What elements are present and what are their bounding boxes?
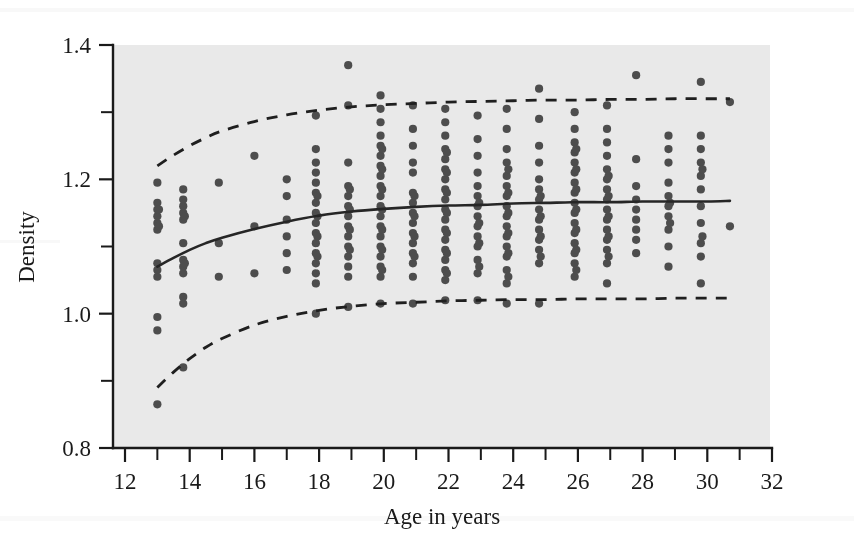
scatter-point [378, 165, 386, 173]
x-tick-label: 20 [372, 469, 395, 494]
scatter-point [605, 232, 613, 240]
scatter-point [572, 246, 580, 254]
scatter-point [605, 212, 613, 220]
scatter-point [153, 179, 161, 187]
scatter-point [378, 226, 386, 234]
scatter-point [503, 145, 511, 153]
scatter-point [179, 293, 187, 301]
scatter-point [572, 185, 580, 193]
scatter-point [504, 229, 512, 237]
scatter-point [664, 132, 672, 140]
scatter-point [179, 185, 187, 193]
scatter-point [666, 219, 674, 227]
scatter-point [504, 209, 512, 217]
y-tick-label: 1.2 [62, 167, 91, 192]
scatter-point [313, 232, 321, 240]
scatter-point [474, 135, 482, 143]
scatter-point [504, 249, 512, 257]
scatter-point [376, 118, 384, 126]
scatter-point [441, 105, 449, 113]
scatter-point [410, 192, 418, 200]
scatter-point [344, 158, 352, 166]
scatter-point [474, 182, 482, 190]
scatter-point [346, 185, 354, 193]
scatter-point [537, 252, 545, 260]
scatter-point [443, 209, 451, 217]
x-tick-label: 22 [437, 469, 460, 494]
scatter-point [181, 259, 189, 267]
scatter-point [603, 279, 611, 287]
scatter-point [503, 125, 511, 133]
scatter-point [283, 232, 291, 240]
y-tick-label: 1.0 [62, 302, 91, 327]
x-tick-label: 26 [566, 469, 589, 494]
scatter-point [632, 216, 640, 224]
scatter-point [312, 279, 320, 287]
scatter-point [475, 219, 483, 227]
scatter-point [181, 212, 189, 220]
scatter-point [535, 115, 543, 123]
scatter-point [664, 242, 672, 250]
scatter-point [443, 189, 451, 197]
scatter-point [409, 273, 417, 281]
scatter-point [697, 202, 705, 210]
scatter-point [443, 249, 451, 257]
scatter-point [410, 232, 418, 240]
scatter-point [153, 326, 161, 334]
scatter-point [409, 142, 417, 150]
scatter-point [312, 179, 320, 187]
scatter-point [603, 125, 611, 133]
scatter-point [215, 273, 223, 281]
scatter-point [632, 205, 640, 213]
scatter-point [632, 71, 640, 79]
x-axis-title: Age in years [384, 504, 500, 529]
scatter-point [441, 118, 449, 126]
scatter-point [443, 229, 451, 237]
chart-figure: 1214161820222426283032 0.81.01.21.4 Age … [0, 0, 854, 559]
x-tick-label: 24 [502, 469, 526, 494]
scatter-point [535, 142, 543, 150]
scatter-point [603, 138, 611, 146]
scatter-point [572, 145, 580, 153]
scatter-point [535, 175, 543, 183]
scatter-point [376, 91, 384, 99]
scatter-point [155, 205, 163, 213]
scatter-point [179, 239, 187, 247]
scatter-point [378, 145, 386, 153]
x-tick-label: 14 [178, 469, 202, 494]
scatter-point [664, 263, 672, 271]
scatter-point [155, 222, 163, 230]
scatter-point [572, 205, 580, 213]
scatter-point [698, 232, 706, 240]
scatter-point [664, 145, 672, 153]
scatter-point [283, 249, 291, 257]
scatter-point [313, 192, 321, 200]
scatter-point [603, 152, 611, 160]
scatter-point [344, 263, 352, 271]
scatter-point [571, 108, 579, 116]
scatter-point [632, 249, 640, 257]
scatter-point [179, 195, 187, 203]
scatter-point [410, 212, 418, 220]
scatter-point [474, 111, 482, 119]
scatter-point [312, 158, 320, 166]
scatter-point [697, 145, 705, 153]
y-tick-label: 1.4 [62, 33, 91, 58]
scatter-point [504, 189, 512, 197]
x-tick-label: 18 [308, 469, 331, 494]
scatter-point [535, 85, 543, 93]
scatter-point [153, 313, 161, 321]
scatter-point [572, 226, 580, 234]
scatter-point [697, 185, 705, 193]
x-tick-label: 30 [696, 469, 719, 494]
scatter-point [153, 400, 161, 408]
scatter-point [504, 273, 512, 281]
y-axis-title: Density [14, 211, 39, 283]
scatter-point [697, 78, 705, 86]
scatter-point [697, 132, 705, 140]
scatter-plot-svg: 1214161820222426283032 0.81.01.21.4 Age … [0, 0, 854, 559]
scatter-point [474, 169, 482, 177]
scatter-point [503, 105, 511, 113]
scatter-point [698, 165, 706, 173]
scatter-point [535, 158, 543, 166]
